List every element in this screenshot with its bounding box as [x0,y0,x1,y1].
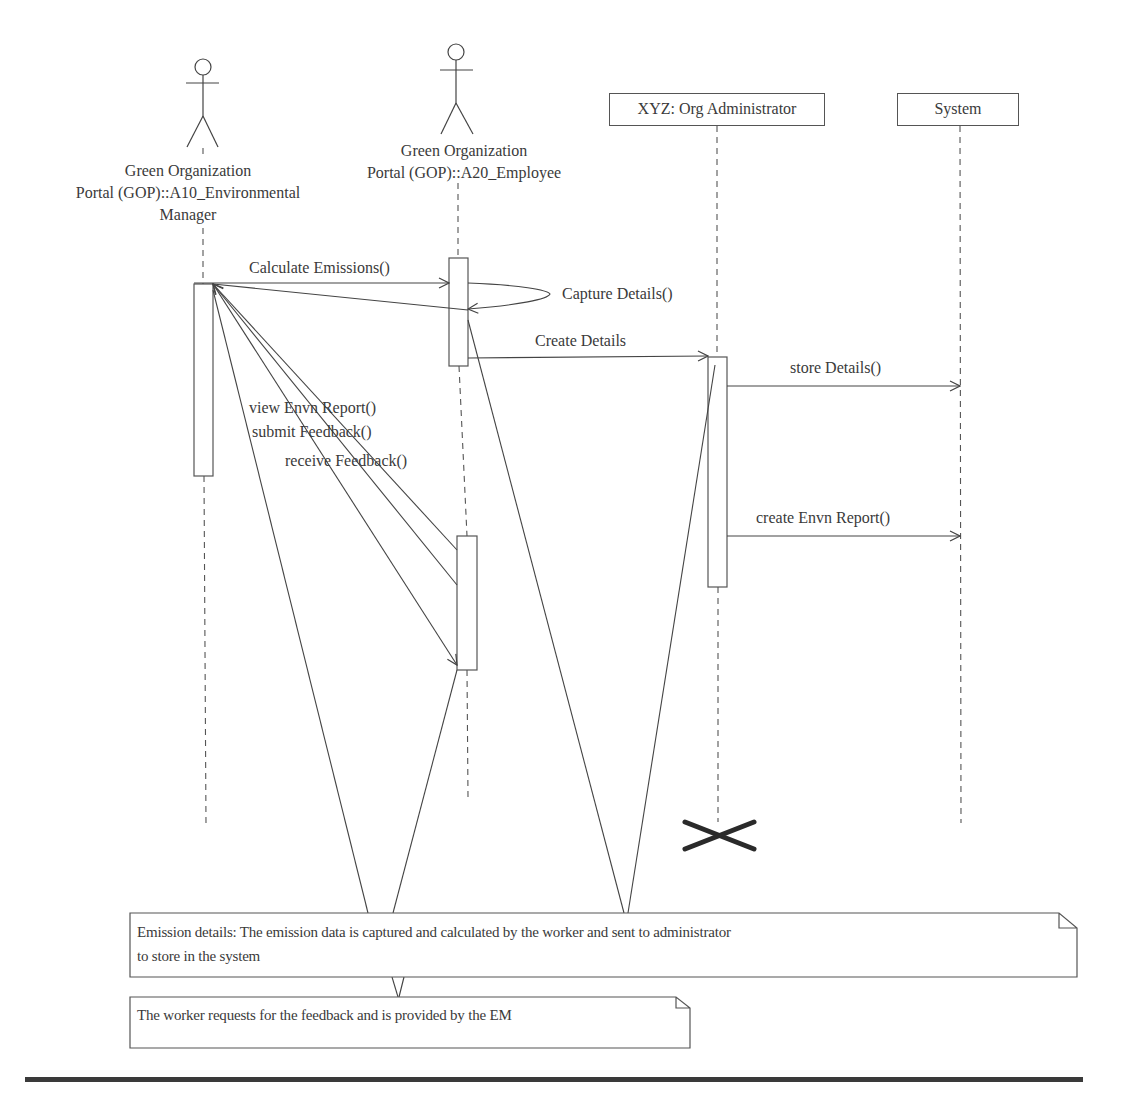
note-anchor-line [399,977,404,997]
lifeline-employee [459,366,467,536]
message-receive-feedback-label: receive Feedback() [285,451,407,471]
actor-env-manager-icon [186,59,219,147]
message-return-line [213,284,468,310]
note-anchor-line [392,977,398,997]
lifeline-employee [467,670,468,797]
message-submit-feedback-label: submit Feedback() [252,422,372,442]
activation-employee-1 [449,258,468,366]
activation-env-manager [194,284,213,476]
message-create-details-label: Create Details [535,331,626,351]
bottom-rule [25,1077,1083,1082]
actor-env-manager-label: Green Organization Portal (GOP)::A10_Env… [76,160,300,226]
message-create-envn-report-label: create Envn Report() [756,508,890,528]
message-store-details-label: store Details() [790,358,881,378]
note-anchor-line [213,290,368,913]
message-create-details-arrow [468,356,708,358]
note-feedback-text: The worker requests for the feedback and… [137,1003,512,1027]
lifeline-env-manager [204,476,206,825]
participant-org-admin-label: XYZ: Org Administrator [638,100,797,117]
message-calculate-emissions-label: Calculate Emissions() [249,258,390,278]
participant-system-box: System [897,93,1019,126]
note-anchor-line [468,320,624,913]
message-receive-feedback-arrow [213,284,457,665]
destruction-x-icon [685,822,754,849]
participant-org-admin-box: XYZ: Org Administrator [609,93,825,126]
lifeline-system [960,126,961,823]
actor-employee-label: Green Organization Portal (GOP)::A20_Emp… [367,140,561,184]
activation-employee-2 [457,536,477,670]
note-emission-text: Emission details: The emission data is c… [137,920,731,968]
message-view-envn-report-label: view Envn Report() [249,398,376,418]
message-capture-details-arrow [468,283,550,309]
participant-system-label: System [934,100,981,117]
actor-employee-icon [440,44,473,134]
message-capture-details-label: Capture Details() [562,284,673,304]
note-anchor-line [393,670,457,913]
